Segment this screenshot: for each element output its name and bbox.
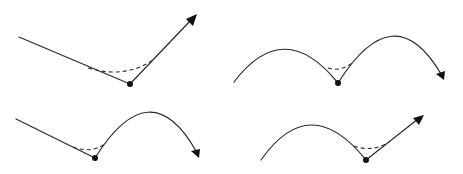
arrowhead-icon <box>191 149 200 158</box>
panel-bottom-right <box>261 115 424 163</box>
incoming-arc-segment <box>261 125 366 160</box>
vertex-point <box>363 157 369 163</box>
arrowhead-icon <box>413 115 424 125</box>
incoming-arc-segment <box>234 49 338 83</box>
panel-bottom-left <box>16 112 200 161</box>
incoming-line-segment <box>16 119 95 158</box>
outgoing-line-segment <box>130 20 191 84</box>
panel-top-left <box>19 14 197 87</box>
outgoing-arc-segment <box>338 36 441 83</box>
outgoing-line-segment <box>366 119 418 160</box>
trajectory-blending-diagram <box>0 0 463 174</box>
vertex-point <box>92 155 98 161</box>
outgoing-arc-segment <box>95 112 196 158</box>
vertex-point <box>335 80 341 86</box>
vertex-point <box>127 81 133 87</box>
panel-top-right <box>234 36 445 86</box>
incoming-line-segment <box>19 37 130 84</box>
